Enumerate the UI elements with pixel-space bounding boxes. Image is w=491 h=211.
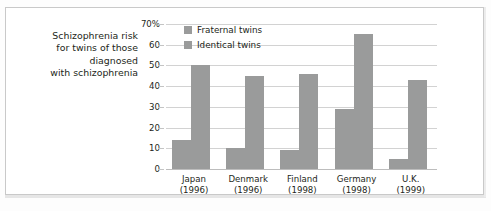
y-tick-dash-0 [158,169,164,170]
figure-bottom-edge [5,195,486,198]
bar-group [329,24,383,169]
y-tick-dash-30 [158,107,164,108]
legend-label: Identical twins [197,40,261,50]
caption-line-4: with schizophrenia [14,67,138,79]
figure-right-edge [484,7,486,197]
gridline-0 [166,169,437,170]
y-tick-dash-70 [158,24,164,25]
bar-japan-identical[interactable] [191,65,210,169]
caption-line-1: Schizophrenia risk [14,30,138,42]
legend-swatch-icon [184,26,192,34]
bar-finland-identical[interactable] [299,74,318,169]
x-label-country: U.K. [380,174,442,185]
chart-legend: Fraternal twinsIdentical twins [184,22,304,52]
bar-uk-fraternal[interactable] [389,159,408,169]
caption-line-2: for twins of those [14,42,138,54]
x-label-year: (1999) [380,185,442,196]
caption-line-3: diagnosed [14,55,138,67]
bar-uk-identical[interactable] [408,80,427,169]
y-tick-label-20: 20 [126,124,160,133]
x-label-year: (1996) [163,185,225,196]
legend-swatch-icon [184,41,192,49]
x-axis-label-denmark: Denmark(1996) [217,174,279,195]
x-label-country: Germany [326,174,388,185]
x-axis-label-uk: U.K.(1999) [380,174,442,195]
y-tick-label-70: 70% [126,20,160,29]
y-tick-label-10: 10 [126,144,160,153]
y-tick-label-30: 30 [126,103,160,112]
y-tick-dash-50 [158,65,164,66]
y-tick-dash-20 [158,128,164,129]
chart-caption: Schizophrenia risk for twins of those di… [14,30,138,80]
x-axis-label-finland: Finland(1998) [271,174,333,195]
bar-japan-fraternal[interactable] [172,140,191,169]
y-tick-dash-10 [158,148,164,149]
legend-item-fraternal[interactable]: Fraternal twins [184,22,304,37]
bar-finland-fraternal[interactable] [280,150,299,169]
y-tick-dash-60 [158,45,164,46]
y-tick-label-40: 40 [126,82,160,91]
bar-germany-fraternal[interactable] [335,109,354,169]
bar-germany-identical[interactable] [354,34,373,169]
x-axis-label-germany: Germany(1998) [326,174,388,195]
legend-item-identical[interactable]: Identical twins [184,37,304,52]
figure-container: Schizophrenia risk for twins of those di… [0,0,491,211]
legend-label: Fraternal twins [197,25,262,35]
y-axis: 70%6050403020100 [122,24,160,169]
bar-denmark-fraternal[interactable] [226,148,245,169]
x-label-country: Japan [163,174,225,185]
x-label-year: (1998) [271,185,333,196]
bar-denmark-identical[interactable] [245,76,264,169]
x-label-year: (1996) [217,185,279,196]
x-axis-label-japan: Japan(1996) [163,174,225,195]
y-tick-label-0: 0 [126,165,160,174]
x-label-country: Denmark [217,174,279,185]
y-tick-dash-40 [158,86,164,87]
x-label-year: (1998) [326,185,388,196]
y-tick-label-50: 50 [126,61,160,70]
bar-group [383,24,437,169]
y-tick-label-60: 60 [126,41,160,50]
x-label-country: Finland [271,174,333,185]
